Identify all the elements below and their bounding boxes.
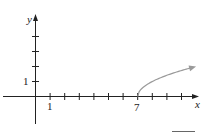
x-tick-label-1: 1: [47, 100, 53, 112]
axes: [3, 14, 199, 124]
y-tick-label-1: 1: [23, 75, 29, 87]
curve-arrow-icon: [189, 65, 197, 71]
graph-figure: y x 1 7 1: [0, 0, 205, 133]
x-axis-label: x: [194, 98, 200, 110]
x-tick-label-7: 7: [134, 101, 140, 113]
y-axis-arrow-icon: [33, 14, 38, 21]
y-axis-label: y: [26, 13, 32, 25]
graph-svg: y x 1 7 1: [0, 0, 205, 133]
function-curve: [138, 67, 193, 96]
